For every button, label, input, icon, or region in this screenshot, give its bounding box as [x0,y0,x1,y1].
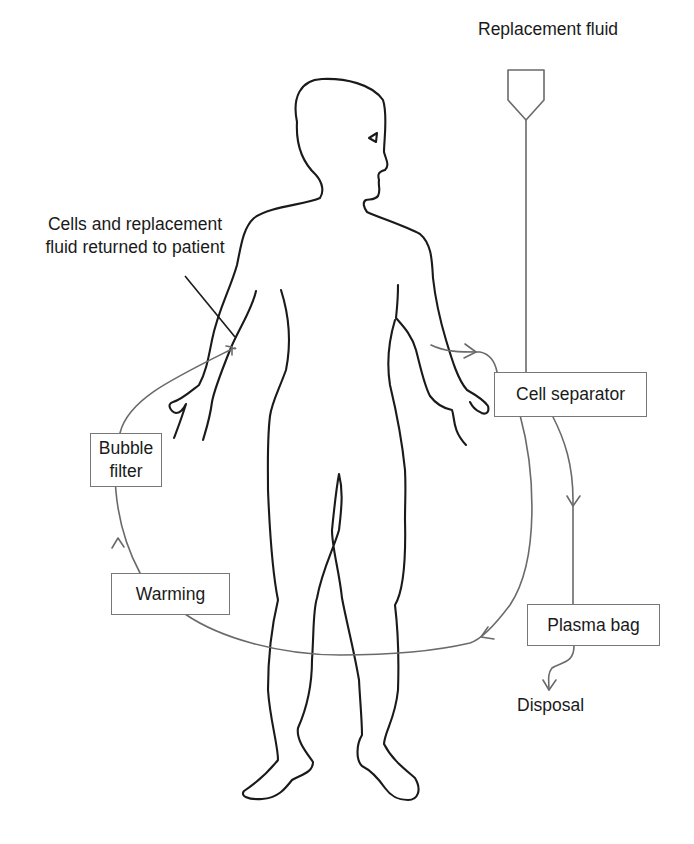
plasma-bag-box: Plasma bag [527,604,660,646]
arrowhead-to-separator [464,344,476,358]
figure-right-torso [388,320,405,520]
arrowhead-return-bottom [481,627,494,639]
disposal-label: Disposal [517,694,584,717]
flow-lines [112,276,580,690]
bubble-filter-box: Bubble filter [90,433,162,487]
human-figure [170,79,489,800]
cell-separator-box: Cell separator [494,372,647,417]
fluid-bag-shape [508,70,544,120]
figure-face [322,79,488,414]
figure-eye [369,133,377,142]
figure-inner-legs [312,474,359,680]
arrowhead-to-filter [112,538,124,548]
cell-separator-label: Cell separator [516,383,625,406]
flow-separator-return [185,415,532,655]
figure-left-leg-outer [243,490,313,799]
figure-left-inner-arm [203,291,256,440]
flow-plasma-to-disposal [549,646,574,690]
warming-box: Warming [111,573,230,615]
bubble-filter-label: Bubble filter [99,437,154,483]
figure-right-leg-outer [358,520,419,800]
figure-right-inner-arm [396,285,466,445]
plasma-exchange-diagram [0,0,694,844]
returned-to-patient-label: Cells and replacement fluid returned to … [30,213,240,259]
flow-filter-to-arm [120,348,236,433]
figure-left-torso [268,290,289,490]
returned-leader-line [185,276,235,337]
flow-separator-to-plasma [552,415,573,606]
replacement-fluid-label: Replacement fluid [478,18,618,41]
warming-label: Warming [136,583,205,606]
replacement-fluid-bag [508,70,544,372]
plasma-bag-label: Plasma bag [547,614,639,637]
